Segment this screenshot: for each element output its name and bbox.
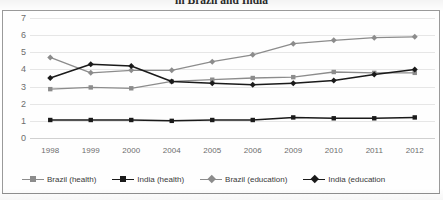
legend-marker-diamond-icon bbox=[311, 174, 319, 182]
legend-item-label: Brazil (health) bbox=[46, 175, 96, 184]
data-point-marker bbox=[291, 75, 295, 79]
x-tick-label-2011: 2011 bbox=[366, 146, 383, 155]
data-point-marker bbox=[88, 61, 94, 67]
data-point-marker bbox=[129, 118, 133, 122]
x-tick-label-2010: 2010 bbox=[325, 146, 343, 155]
series-line bbox=[50, 37, 415, 73]
series-line bbox=[50, 72, 415, 89]
x-tick-label-1999: 1999 bbox=[82, 146, 100, 155]
series-lines bbox=[30, 18, 435, 138]
data-point-marker bbox=[331, 37, 337, 43]
data-point-marker bbox=[251, 76, 255, 80]
x-tick-label-2005: 2005 bbox=[203, 146, 221, 155]
data-point-marker bbox=[290, 41, 296, 47]
data-point-marker bbox=[371, 35, 377, 41]
y-tick-label-3: 3 bbox=[8, 82, 26, 92]
legend-swatch-square-icon bbox=[22, 175, 44, 184]
data-point-marker bbox=[251, 118, 255, 122]
data-point-marker bbox=[412, 34, 418, 40]
data-point-marker bbox=[89, 118, 93, 122]
data-point-marker bbox=[170, 119, 174, 123]
data-point-marker bbox=[48, 87, 52, 91]
y-tick-label-5: 5 bbox=[8, 47, 26, 57]
chart-title: in Brazil and India bbox=[0, 0, 443, 8]
series-india-education bbox=[47, 61, 418, 88]
series-line bbox=[50, 117, 415, 120]
data-point-marker bbox=[290, 80, 296, 86]
legend-item-india-health[interactable]: India (health) bbox=[112, 175, 184, 184]
series-brazil-education bbox=[47, 34, 418, 76]
data-point-marker bbox=[291, 115, 295, 119]
legend-swatch-diamond-icon bbox=[200, 175, 222, 184]
data-point-marker bbox=[88, 70, 94, 76]
series-line bbox=[50, 64, 415, 85]
bottom-rule bbox=[2, 193, 440, 194]
x-axis-line bbox=[30, 138, 435, 139]
legend-item-label: Brazil (education) bbox=[224, 175, 287, 184]
data-point-marker bbox=[331, 78, 337, 84]
data-point-marker bbox=[332, 70, 336, 74]
data-point-marker bbox=[372, 116, 376, 120]
data-point-marker bbox=[128, 63, 134, 69]
y-tick-label-1: 1 bbox=[8, 116, 26, 126]
data-point-marker bbox=[209, 59, 215, 65]
y-tick-label-7: 7 bbox=[8, 13, 26, 23]
legend-swatch-diamond-icon bbox=[303, 175, 325, 184]
data-point-marker bbox=[332, 116, 336, 120]
data-point-marker bbox=[250, 82, 256, 88]
x-tick-label-2000: 2000 bbox=[122, 146, 140, 155]
data-point-marker bbox=[89, 85, 93, 89]
data-point-marker bbox=[413, 115, 417, 119]
data-point-marker bbox=[210, 118, 214, 122]
plot-area bbox=[30, 18, 435, 138]
data-point-marker bbox=[47, 75, 53, 81]
x-tick-label-2004: 2004 bbox=[163, 146, 181, 155]
legend-item-label: India (education bbox=[327, 175, 385, 184]
y-tick-label-4: 4 bbox=[8, 64, 26, 74]
data-point-marker bbox=[169, 67, 175, 73]
legend-item-india-education[interactable]: India (education bbox=[303, 175, 385, 184]
series-india-health bbox=[48, 115, 417, 123]
x-tick-label-2012: 2012 bbox=[406, 146, 424, 155]
legend-swatch-square-icon bbox=[112, 175, 134, 184]
x-tick-label-2006: 2006 bbox=[244, 146, 262, 155]
chart-legend: Brazil (health)India (health)Brazil (edu… bbox=[22, 172, 432, 186]
legend-marker-diamond-icon bbox=[207, 174, 215, 182]
legend-marker-square-icon bbox=[120, 176, 126, 182]
y-tick-label-6: 6 bbox=[8, 30, 26, 40]
data-point-marker bbox=[129, 86, 133, 90]
data-point-marker bbox=[47, 54, 53, 60]
series-brazil-health bbox=[48, 70, 417, 92]
legend-item-brazil-health[interactable]: Brazil (health) bbox=[22, 175, 96, 184]
legend-item-label: India (health) bbox=[136, 175, 184, 184]
line-chart-figure: in Brazil and India 76543210 19981999200… bbox=[0, 0, 443, 200]
legend-item-brazil-education[interactable]: Brazil (education) bbox=[200, 175, 287, 184]
x-tick-label-1998: 1998 bbox=[41, 146, 59, 155]
y-tick-label-0: 0 bbox=[8, 133, 26, 143]
y-tick-label-2: 2 bbox=[8, 99, 26, 109]
data-point-marker bbox=[250, 52, 256, 58]
x-tick-label-2009: 2009 bbox=[284, 146, 302, 155]
data-point-marker bbox=[48, 118, 52, 122]
legend-marker-square-icon bbox=[30, 176, 36, 182]
